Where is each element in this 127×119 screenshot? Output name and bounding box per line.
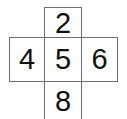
grid-cell-right: 6: [81, 37, 118, 82]
grid-cell-bottom: 8: [44, 81, 82, 119]
grid-cell-top: 2: [44, 7, 82, 39]
grid-cell-left: 4: [9, 37, 45, 82]
plus-shaped-number-grid: 2 4 5 6 8: [0, 0, 127, 119]
grid-cell-center: 5: [44, 37, 82, 82]
